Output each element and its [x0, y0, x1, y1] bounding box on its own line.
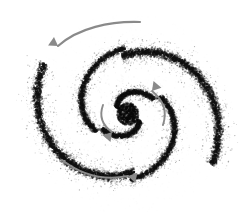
- rotation-arrow-outer-top: [48, 22, 140, 46]
- arrows-group: [48, 22, 165, 183]
- rotation-arrow-inner-right-line: [152, 91, 165, 125]
- rotation-arrow-outer-top-line: [58, 22, 140, 46]
- rotation-arrow-inner-right-head-icon: [152, 81, 161, 91]
- rotation-arrow-layer: [0, 0, 239, 223]
- rotation-arrow-inner-left-head-icon: [103, 132, 112, 142]
- rotation-arrow-inner-left-line: [101, 105, 112, 132]
- rotation-arrow-inner-right: [152, 81, 165, 125]
- rotation-arrow-inner-left: [101, 105, 112, 142]
- galaxy-rotation-figure: Spiral galaxy rotation diagram countercl…: [0, 0, 239, 223]
- rotation-arrow-outer-top-head-icon: [48, 37, 58, 46]
- rotation-arrow-outer-bottom: [62, 160, 137, 183]
- rotation-arrow-outer-bottom-line: [62, 160, 128, 178]
- rotation-arrow-outer-bottom-head-icon: [128, 173, 137, 183]
